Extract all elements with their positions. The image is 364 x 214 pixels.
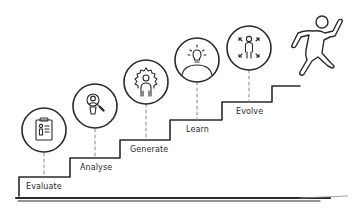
staircase-diagram: Evaluate Analyse Generate Learn Evolve (0, 0, 364, 214)
clipboard-person-icon (36, 118, 52, 140)
evaluate-circle (22, 108, 66, 152)
staircase-outline (19, 86, 300, 196)
step-label-analyse: Analyse (80, 163, 112, 172)
gear-person-icon (135, 68, 157, 96)
running-person-climbing-icon (292, 16, 343, 75)
generate-circle (124, 60, 168, 104)
evolve-circle (227, 26, 271, 70)
step-label-learn: Learn (186, 125, 209, 134)
step-label-evolve: Evolve (236, 107, 263, 116)
step-label-evaluate: Evaluate (26, 182, 62, 191)
lightbulb-person-icon (182, 45, 212, 75)
step-label-generate: Generate (130, 145, 168, 154)
magnifier-person-icon (87, 94, 104, 114)
expand-arrows-person-icon (239, 36, 259, 58)
